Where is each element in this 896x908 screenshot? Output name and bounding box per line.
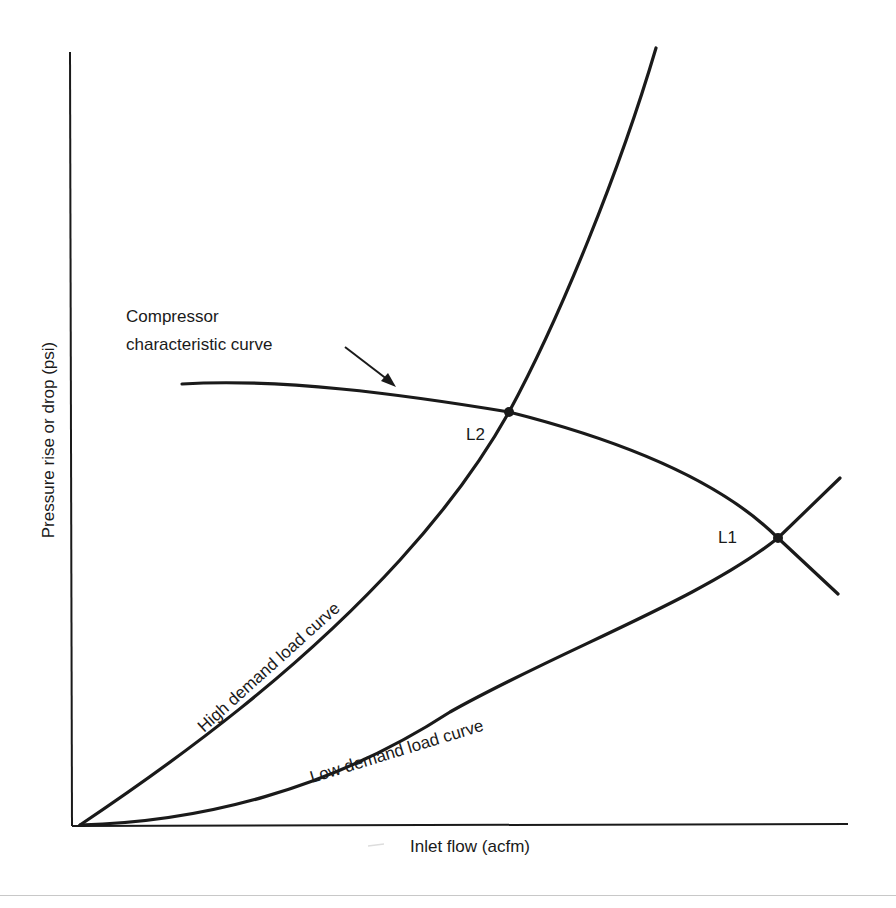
x-axis-label: Inlet flow (acfm)	[410, 837, 530, 856]
high-demand-load-curve	[80, 48, 656, 825]
compressor-load-chart: Compressor characteristic curve L2 L1 Hi…	[0, 0, 896, 908]
x-axis	[72, 824, 848, 826]
operating-point-l1	[773, 533, 783, 543]
high-demand-label: High demand load curve	[194, 599, 344, 736]
y-axis	[70, 52, 72, 826]
l2-label: L2	[466, 425, 485, 444]
low-demand-label: Low demand load curve	[308, 716, 486, 787]
annotation-arrow	[345, 347, 396, 387]
y-axis-label: Pressure rise or drop (psi)	[39, 342, 58, 539]
operating-point-l2	[504, 407, 514, 417]
l1-label: L1	[718, 528, 737, 547]
stray-mark	[368, 844, 384, 846]
compressor-label-line2: characteristic curve	[126, 335, 272, 354]
axes	[70, 52, 848, 826]
compressor-label-line1: Compressor	[126, 307, 219, 326]
bottom-rule	[0, 895, 896, 896]
